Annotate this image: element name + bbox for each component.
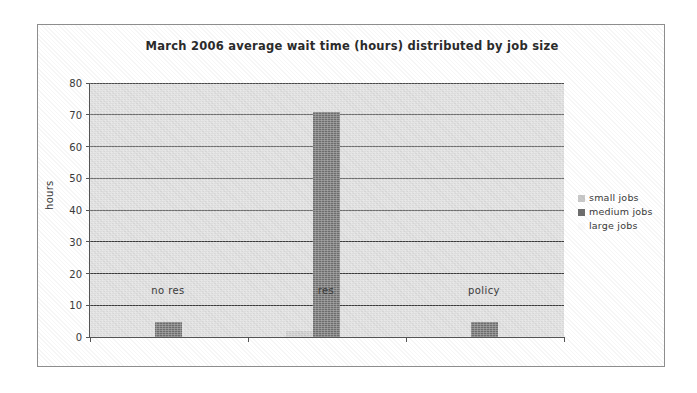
y-axis-tick (86, 305, 90, 306)
chart-title: March 2006 average wait time (hours) dis… (38, 39, 666, 53)
legend-label: large jobs (589, 219, 638, 233)
y-axis-tick-label: 80 (69, 78, 82, 89)
y-axis-tick-label: 40 (69, 205, 82, 216)
y-axis-tick-label: 20 (69, 268, 82, 279)
legend-item: medium jobs (578, 205, 664, 219)
y-axis-title: hours (44, 180, 55, 210)
x-axis-tick-label: res (318, 285, 334, 296)
bar (286, 331, 313, 337)
y-axis-tick (86, 241, 90, 242)
legend-swatch-icon (578, 209, 585, 216)
gridline (90, 83, 564, 84)
y-axis-tick-label: 30 (69, 236, 82, 247)
x-axis-tick (406, 337, 407, 342)
x-axis-tick (90, 337, 91, 342)
bar (471, 322, 498, 337)
y-axis-tick (86, 178, 90, 179)
y-axis-tick-label: 70 (69, 109, 82, 120)
legend-item: large jobs (578, 219, 664, 233)
y-axis-tick-label: 0 (76, 332, 82, 343)
x-axis-tick-label: no res (151, 285, 184, 296)
y-axis-tick (86, 146, 90, 147)
y-axis-tick (86, 114, 90, 115)
y-axis-tick (86, 83, 90, 84)
plot-area: 01020304050607080 (89, 83, 564, 338)
y-axis-tick-label: 10 (69, 300, 82, 311)
x-axis-tick-label: policy (468, 285, 500, 296)
x-axis-tick (248, 337, 249, 342)
legend-swatch-icon (578, 195, 585, 202)
y-axis-tick (86, 210, 90, 211)
y-axis-tick-label: 60 (69, 141, 82, 152)
legend-label: medium jobs (589, 205, 653, 219)
chart-frame: March 2006 average wait time (hours) dis… (37, 24, 665, 367)
chart-legend: small jobsmedium jobslarge jobs (578, 191, 664, 233)
bar (155, 322, 182, 337)
legend-label: small jobs (589, 191, 639, 205)
y-axis-tick (86, 273, 90, 274)
x-axis-tick (564, 337, 565, 342)
y-axis-tick-label: 50 (69, 173, 82, 184)
bar (313, 112, 340, 337)
legend-swatch-icon (578, 223, 585, 230)
legend-item: small jobs (578, 191, 664, 205)
